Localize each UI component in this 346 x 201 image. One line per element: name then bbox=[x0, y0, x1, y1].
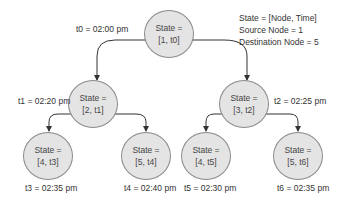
node-state-value: [1, t0] bbox=[158, 34, 179, 46]
node-state-label: State = bbox=[34, 144, 61, 156]
node-state-label: State = bbox=[79, 92, 106, 104]
time-label-right: t2 = 02:25 pm bbox=[274, 96, 326, 106]
legend-destination-node: Destination Node = 5 bbox=[239, 36, 319, 48]
node-state-label: State = bbox=[192, 144, 219, 156]
node-left: State = [2, t1] bbox=[68, 80, 118, 128]
node-state-value: [5, t6] bbox=[287, 156, 308, 168]
edge-right-rr bbox=[264, 114, 298, 131]
node-state-value: [4, t5] bbox=[195, 156, 216, 168]
time-label-left-right: t4 = 02:40 pm bbox=[124, 183, 176, 193]
node-state-value: [5, t4] bbox=[135, 156, 156, 168]
edge-left-lr bbox=[113, 114, 146, 131]
node-state-label: State = bbox=[284, 144, 311, 156]
legend: State = [Node, Time] Source Node = 1 Des… bbox=[239, 12, 319, 48]
node-left-left: State = [4, t3] bbox=[23, 132, 73, 180]
edge-root-left bbox=[97, 40, 145, 80]
node-state-label: State = bbox=[230, 92, 257, 104]
time-label-right-right: t6 = 02:35 pm bbox=[277, 183, 329, 193]
node-right-left: State = [4, t5] bbox=[181, 132, 231, 180]
node-state-label: State = bbox=[132, 144, 159, 156]
node-state-value: [3, t2] bbox=[233, 104, 254, 116]
edge-left-ll bbox=[49, 114, 73, 131]
node-left-right: State = [5, t4] bbox=[121, 132, 171, 180]
time-label-left-left: t3 = 02:35 pm bbox=[25, 183, 77, 193]
legend-source-node: Source Node = 1 bbox=[239, 24, 319, 36]
legend-state-format: State = [Node, Time] bbox=[239, 12, 319, 24]
time-label-right-left: t5 = 02:30 pm bbox=[184, 183, 236, 193]
node-right: State = [3, t2] bbox=[219, 80, 269, 128]
time-label-root: t0 = 02:00 pm bbox=[76, 24, 128, 34]
node-state-value: [2, t1] bbox=[82, 104, 103, 116]
node-state-label: State = bbox=[155, 22, 182, 34]
node-state-value: [4, t3] bbox=[37, 156, 58, 168]
node-right-right: State = [5, t6] bbox=[273, 132, 323, 180]
node-root: State = [1, t0] bbox=[144, 10, 194, 58]
time-label-left: t1 = 02:20 pm bbox=[18, 96, 70, 106]
